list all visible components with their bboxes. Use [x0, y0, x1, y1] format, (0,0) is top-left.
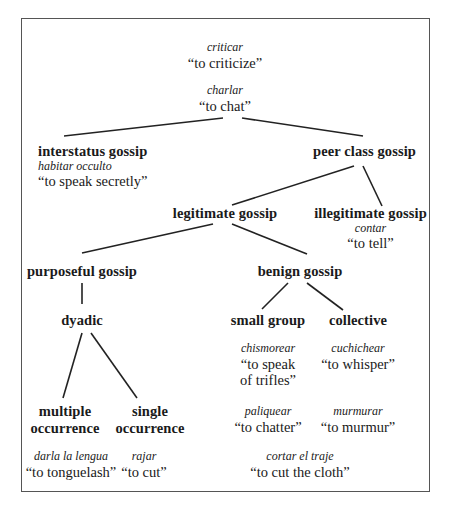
node-collective: collective	[322, 312, 394, 329]
term-criticar: criticar	[175, 41, 275, 55]
gloss-speak-of-trifles-2: of trifles”	[225, 372, 311, 389]
node-darla-la-lengua: darla la lengua “to tonguelash”	[25, 450, 117, 480]
label-legitimate-gossip: legitimate gossip	[160, 205, 290, 222]
edge-legitimate-benign	[232, 224, 307, 254]
edge-dyadic-single	[91, 333, 137, 398]
gloss-to-tonguelash: “to tonguelash”	[25, 464, 117, 481]
edge-legitimate-purposeful	[82, 224, 213, 253]
term-cuchichear: cuchichear	[318, 342, 398, 356]
gloss-to-cut: “to cut”	[118, 464, 170, 481]
label-dyadic: dyadic	[47, 312, 117, 329]
gloss-charlar: “to chat”	[175, 98, 275, 115]
node-charlar: charlar “to chat”	[175, 84, 275, 114]
label-benign-gossip: benign gossip	[250, 263, 350, 280]
edge-charlar-interstatus	[64, 118, 223, 136]
label-collective: collective	[322, 312, 394, 329]
node-purposeful-gossip: purposeful gossip	[22, 263, 142, 280]
edge-charlar-peer-class	[242, 118, 363, 136]
node-dyadic: dyadic	[47, 312, 117, 329]
node-single-occurrence: single occurrence	[110, 403, 190, 436]
label-single-occurrence: occurrence	[110, 420, 190, 437]
node-peer-class-gossip: peer class gossip	[313, 143, 416, 160]
term-charlar: charlar	[175, 84, 275, 98]
node-small-group: small group	[225, 312, 311, 329]
gloss-to-tell: “to tell”	[313, 235, 428, 252]
term-paliquear: paliquear	[225, 405, 311, 419]
node-rajar: rajar “to cut”	[118, 450, 170, 480]
edge-benign-small-group	[262, 283, 288, 309]
label-single: single	[110, 403, 190, 420]
label-small-group: small group	[225, 312, 311, 329]
gloss-speak-of-trifles-1: “to speak	[225, 356, 311, 373]
label-multiple: multiple	[25, 403, 105, 420]
term-darla-la-lengua: darla la lengua	[25, 450, 117, 464]
term-murmurar: murmurar	[318, 405, 398, 419]
gloss-to-whisper: “to whisper”	[318, 356, 398, 373]
gloss-criticar: “to criticize”	[175, 55, 275, 72]
gloss-to-murmur: “to murmur”	[318, 419, 398, 436]
label-interstatus-gossip: interstatus gossip	[38, 143, 148, 160]
gloss-speak-secretly: “to speak secretly”	[38, 173, 148, 190]
label-peer-class-gossip: peer class gossip	[313, 143, 416, 160]
node-cuchichear: cuchichear “to whisper”	[318, 342, 398, 372]
node-illegitimate-gossip: illegitimate gossip contar “to tell”	[313, 205, 428, 252]
term-chismorear: chismorear	[225, 342, 311, 356]
gloss-to-chatter: “to chatter”	[225, 419, 311, 436]
label-purposeful-gossip: purposeful gossip	[22, 263, 142, 280]
node-chismorear: chismorear “to speak of trifles”	[225, 342, 311, 389]
node-paliquear: paliquear “to chatter”	[225, 405, 311, 435]
label-illegitimate-gossip: illegitimate gossip	[313, 205, 428, 222]
edge-peer-legitimate	[232, 166, 354, 205]
term-contar: contar	[313, 222, 428, 236]
label-multiple-occurrence: occurrence	[25, 420, 105, 437]
node-multiple-occurrence: multiple occurrence	[25, 403, 105, 436]
node-benign-gossip: benign gossip	[250, 263, 350, 280]
node-legitimate-gossip: legitimate gossip	[160, 205, 290, 222]
term-habitar-occulto: habitar occulto	[38, 160, 148, 174]
node-cortar-el-traje: cortar el traje “to cut the cloth”	[230, 450, 370, 480]
node-interstatus-gossip: interstatus gossip habitar occulto “to s…	[38, 143, 148, 190]
term-cortar-el-traje: cortar el traje	[230, 450, 370, 464]
edge-benign-collective	[307, 283, 343, 310]
node-murmurar: murmurar “to murmur”	[318, 405, 398, 435]
edge-peer-illegitimate	[363, 166, 382, 206]
node-criticar: criticar “to criticize”	[175, 41, 275, 71]
edge-dyadic-multiple	[63, 333, 82, 398]
gloss-to-cut-the-cloth: “to cut the cloth”	[230, 464, 370, 481]
term-rajar: rajar	[118, 450, 170, 464]
